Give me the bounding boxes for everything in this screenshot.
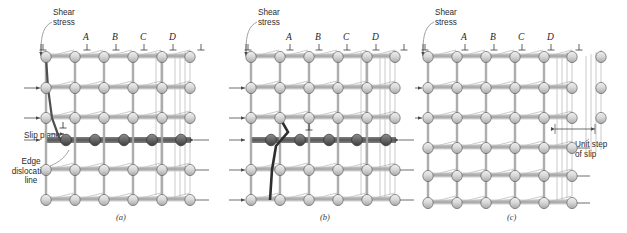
panel-c-lattice-graphic <box>415 0 627 233</box>
panel-c: Shear stress A B C D Unit step of slip (… <box>415 0 627 233</box>
panel-c-unit-step-dimension <box>555 124 595 134</box>
panel-a-lattice-graphic <box>0 0 210 233</box>
panel-a: Shear stress A B C D Slip plane Edge dis… <box>0 0 210 233</box>
panel-b: Shear stress A B C D (b) <box>210 0 415 233</box>
panel-b-lattice-graphic <box>210 0 415 233</box>
figure-edge-dislocation-slip: Shear stress A B C D Slip plane Edge dis… <box>0 0 627 233</box>
panel-c-right-shear-arrows <box>577 148 590 203</box>
